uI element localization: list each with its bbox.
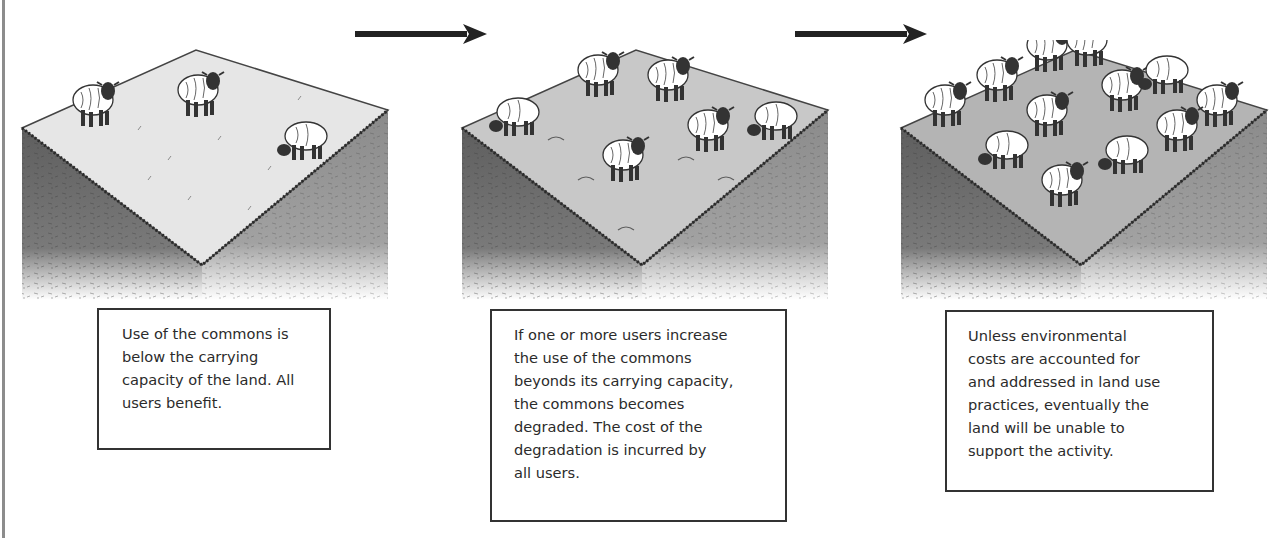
stage-3-caption-box: Unless environmental costs are accounted… (945, 310, 1214, 492)
left-margin-rule (2, 0, 5, 538)
stage-1-illustration (18, 40, 398, 300)
stage-2-illustration (458, 40, 838, 300)
stage-1-caption-text: Use of the commons is below the carrying… (122, 322, 309, 414)
stage-3-illustration (897, 40, 1277, 300)
stage-2-caption-box: If one or more users increase the use of… (490, 309, 787, 522)
stage-1-caption-box: Use of the commons is below the carrying… (97, 308, 331, 450)
stage-2-caption-text: If one or more users increase the use of… (514, 323, 765, 484)
stage-3-caption-text: Unless environmental costs are accounted… (968, 324, 1192, 462)
